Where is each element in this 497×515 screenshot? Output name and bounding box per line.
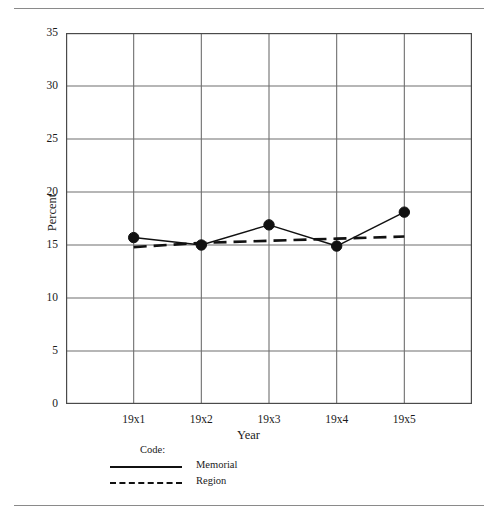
data-point-marker [399,207,409,217]
legend-solid-line-icon [110,466,182,468]
y-tick-label: 5 [32,345,58,357]
y-tick-label: 35 [32,27,58,39]
data-point-marker [128,232,138,242]
chart-canvas [66,33,472,404]
data-point-marker [196,240,206,250]
x-tick-label: 19x2 [171,414,231,426]
legend-dashed-line-icon [110,482,182,484]
top-divider-rule [14,8,484,9]
x-tick-label: 19x1 [104,414,164,426]
legend-label-region: Region [196,475,226,486]
x-axis-title: Year [0,428,497,443]
y-tick-label: 30 [32,80,58,92]
x-tick-label: 19x5 [374,414,434,426]
data-point-marker [264,220,274,230]
y-tick-label: 0 [32,398,58,410]
legend-label-memorial: Memorial [196,459,237,470]
chart-figure: Percent Year 05101520253035 19x119x219x3… [0,0,497,515]
y-tick-label: 15 [32,239,58,251]
y-tick-label: 20 [32,186,58,198]
x-tick-label: 19x3 [239,414,299,426]
plot-area [66,33,472,404]
legend-title: Code: [140,444,165,455]
y-tick-label: 10 [32,292,58,304]
bottom-divider-rule [14,505,484,506]
x-tick-label: 19x4 [307,414,367,426]
data-point-marker [331,241,341,251]
y-axis-title: Percent [45,153,60,273]
vertical-gridlines [134,33,405,404]
y-tick-label: 25 [32,133,58,145]
